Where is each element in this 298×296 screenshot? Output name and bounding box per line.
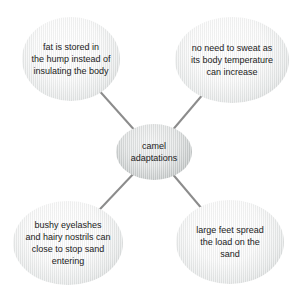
node-camel-adaptations-label: camel adaptations bbox=[131, 140, 178, 164]
node-camel-adaptations: camel adaptations bbox=[116, 124, 192, 180]
concept-map-canvas: fat is stored in the hump instead of ins… bbox=[0, 0, 298, 296]
node-eyelashes-nostrils: bushy eyelashes and hairy nostrils can c… bbox=[13, 201, 123, 285]
node-fat-storage-label: fat is stored in the hump instead of ins… bbox=[31, 41, 110, 77]
node-body-temperature-label: no need to sweat as its body temperature… bbox=[191, 42, 273, 78]
node-large-feet: large feet spread the load on the sand bbox=[176, 200, 284, 284]
node-body-temperature: no need to sweat as its body temperature… bbox=[175, 17, 289, 103]
node-large-feet-label: large feet spread the load on the sand bbox=[196, 224, 264, 260]
node-eyelashes-nostrils-label: bushy eyelashes and hairy nostrils can c… bbox=[25, 219, 110, 267]
node-fat-storage: fat is stored in the hump instead of ins… bbox=[22, 17, 120, 101]
